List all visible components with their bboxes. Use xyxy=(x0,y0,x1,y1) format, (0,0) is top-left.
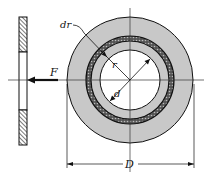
force-label: F xyxy=(49,66,58,79)
arrowhead-icon xyxy=(27,77,35,84)
side-plate-bottom-section xyxy=(19,110,27,145)
side-plate-hole xyxy=(19,52,27,110)
ring-width-label: dr xyxy=(60,19,72,30)
side-view xyxy=(19,17,27,145)
side-plate-top-section xyxy=(19,17,27,52)
washer-diagram: F r d dr D xyxy=(0,0,212,180)
outer-diameter-label: D xyxy=(124,158,134,171)
inner-diameter-label: d xyxy=(114,88,120,99)
